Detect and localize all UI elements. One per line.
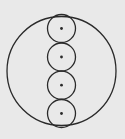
center-point-4 xyxy=(60,112,63,115)
circle-diagram xyxy=(0,0,125,139)
center-point-1 xyxy=(60,27,63,30)
center-point-3 xyxy=(60,84,63,87)
center-point-2 xyxy=(60,56,63,59)
inner-circles xyxy=(48,15,76,128)
